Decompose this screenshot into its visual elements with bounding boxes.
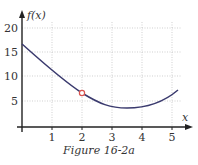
y-tick-20: 20 — [4, 22, 18, 35]
y-tick-5: 5 — [11, 95, 18, 108]
grid — [22, 22, 182, 127]
x-tick-2: 2 — [79, 131, 86, 144]
x-axis-arrow-icon — [185, 124, 193, 130]
x-axis-label: x — [182, 111, 189, 124]
figure-caption: Figure 16-2a — [0, 144, 198, 157]
x-tick-4: 4 — [139, 131, 146, 144]
y-axis-arrow-icon — [19, 10, 25, 18]
y-axis-label: f(x) — [26, 9, 46, 22]
x-tick-3: 3 — [109, 131, 116, 144]
y-tick-10: 10 — [4, 70, 18, 83]
x-tick-5: 5 — [169, 131, 176, 144]
highlight-point — [79, 90, 84, 95]
y-tick-15: 15 — [4, 46, 18, 59]
chart-canvas: f(x) x 20 15 10 5 1 2 3 4 5 — [0, 0, 198, 165]
x-tick-1: 1 — [49, 131, 56, 144]
